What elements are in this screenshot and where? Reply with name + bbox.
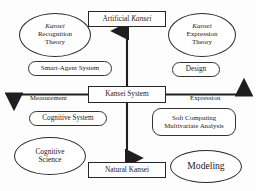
node-smart-agent-system[interactable]: Smart-Agent System	[28, 61, 112, 76]
node-soft-computing-multivariate-analysis[interactable]: Soft Computing Multivariate Analysis	[152, 108, 236, 136]
node-design[interactable]: Design	[172, 62, 220, 77]
node-artificial-kansei-label: Artificial Kansei	[101, 15, 154, 23]
kansei-system-diagram: Artificial Kansei Kansei System Natural …	[0, 0, 256, 191]
node-design-label: Design	[184, 65, 208, 73]
node-modeling[interactable]: Modeling	[170, 150, 242, 183]
node-cognitive-system[interactable]: Cognitive System	[29, 111, 107, 126]
node-natural-kansei[interactable]: Natural Kansei	[88, 162, 166, 178]
axis-label-measurement: Measurement	[30, 94, 67, 101]
node-kansei-recognition-theory-label: Kansei Recognition Theory	[36, 23, 74, 46]
node-kansei-system[interactable]: Kansei System	[88, 86, 166, 103]
node-smart-agent-system-label: Smart-Agent System	[39, 65, 102, 73]
node-kansei-recognition-theory[interactable]: Kansei Recognition Theory	[19, 13, 91, 57]
node-kansei-expression-theory-label: Kansei Expression Theory	[184, 23, 219, 46]
node-artificial-kansei[interactable]: Artificial Kansei	[88, 11, 166, 27]
node-modeling-label: Modeling	[185, 161, 226, 172]
node-natural-kansei-label: Natural Kansei	[103, 166, 151, 174]
axis-label-expression: Expression	[190, 94, 220, 101]
node-soft-computing-label: Soft Computing Multivariate Analysis	[162, 114, 226, 129]
node-kansei-expression-theory[interactable]: Kansei Expression Theory	[168, 13, 236, 57]
node-cognitive-system-label: Cognitive System	[40, 114, 95, 122]
node-cognitive-science[interactable]: Cognitive Science	[14, 137, 86, 175]
node-cognitive-science-label: Cognitive Science	[33, 148, 66, 165]
node-kansei-system-label: Kansei System	[103, 90, 151, 98]
